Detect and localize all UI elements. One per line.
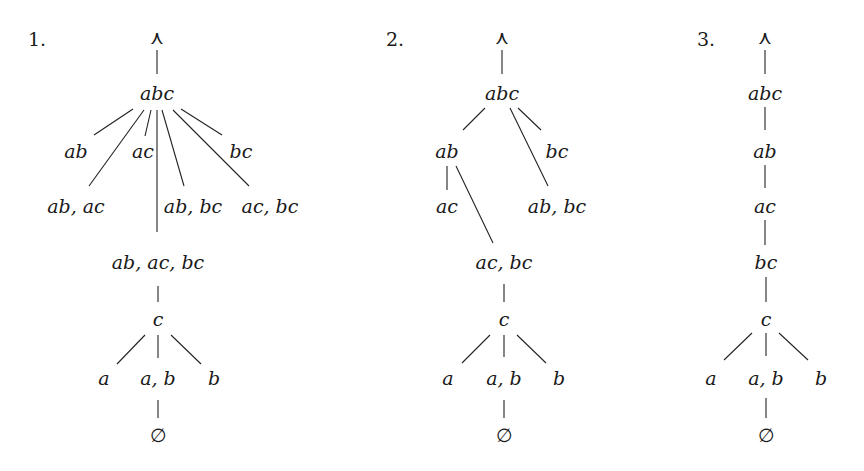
node-top: ⋏ — [758, 26, 772, 48]
node-top: ⋏ — [495, 26, 509, 48]
edge — [510, 108, 548, 186]
node-abc: abc — [485, 82, 519, 104]
node-c: c — [499, 308, 510, 330]
node-empty: ∅ — [758, 424, 775, 446]
tree-number: 3. — [697, 28, 715, 50]
edge — [779, 333, 808, 360]
node-ac: ac — [436, 195, 458, 217]
tree-1: 1. ⋏abcabacbcab, acab, bcac, bcab, ac, b… — [28, 26, 299, 446]
node-ab: ab — [64, 140, 88, 162]
node-b: b — [208, 367, 220, 389]
node-c: c — [153, 308, 164, 330]
tree-number: 2. — [386, 28, 404, 50]
edge — [517, 335, 546, 363]
node-abc: abc — [748, 82, 782, 104]
node-ac-bc: ac, bc — [242, 195, 299, 217]
edge — [462, 335, 490, 363]
node-empty: ∅ — [150, 424, 167, 446]
node-a: a — [442, 367, 453, 389]
edge — [181, 109, 222, 135]
tree-number: 1. — [28, 28, 46, 50]
node-ab-ac-bc: ab, ac, bc — [112, 251, 205, 273]
tree-2: 2. ⋏abcabbcacab, bcac, bccaa, bb∅ — [386, 26, 587, 446]
edge — [456, 166, 493, 243]
node-b: b — [553, 367, 565, 389]
node-ab-bc: ab, bc — [528, 195, 587, 217]
node-b: b — [815, 367, 827, 389]
node-a-b: a, b — [486, 367, 522, 389]
edge — [518, 108, 541, 130]
node-a: a — [705, 367, 716, 389]
node-ab: ab — [753, 140, 777, 162]
node-a-b: a, b — [748, 367, 784, 389]
node-ab-bc: ab, bc — [164, 195, 223, 217]
edge — [117, 335, 145, 364]
node-empty: ∅ — [496, 424, 513, 446]
node-ab: ab — [435, 140, 459, 162]
node-ab-ac: ab, ac — [47, 195, 105, 217]
node-a-b: a, b — [140, 367, 176, 389]
node-bc: bc — [755, 251, 778, 273]
node-abc: abc — [140, 82, 174, 104]
edge — [145, 110, 151, 136]
node-ac: ac — [754, 195, 776, 217]
tree-3: 3. ⋏abcabacbccaa, bb∅ — [697, 26, 827, 446]
node-top: ⋏ — [150, 26, 164, 48]
node-ac-bc: ac, bc — [476, 251, 533, 273]
edge — [463, 108, 485, 130]
node-c: c — [761, 308, 772, 330]
node-bc: bc — [546, 140, 569, 162]
edge — [162, 110, 184, 186]
node-ac: ac — [132, 140, 154, 162]
edge — [724, 333, 752, 360]
node-a: a — [98, 367, 109, 389]
node-bc: bc — [230, 140, 253, 162]
lattice-diagram: 1. ⋏abcabacbcab, acab, bcac, bcab, ac, b… — [0, 0, 864, 471]
edge — [94, 109, 133, 135]
edge — [171, 335, 201, 364]
